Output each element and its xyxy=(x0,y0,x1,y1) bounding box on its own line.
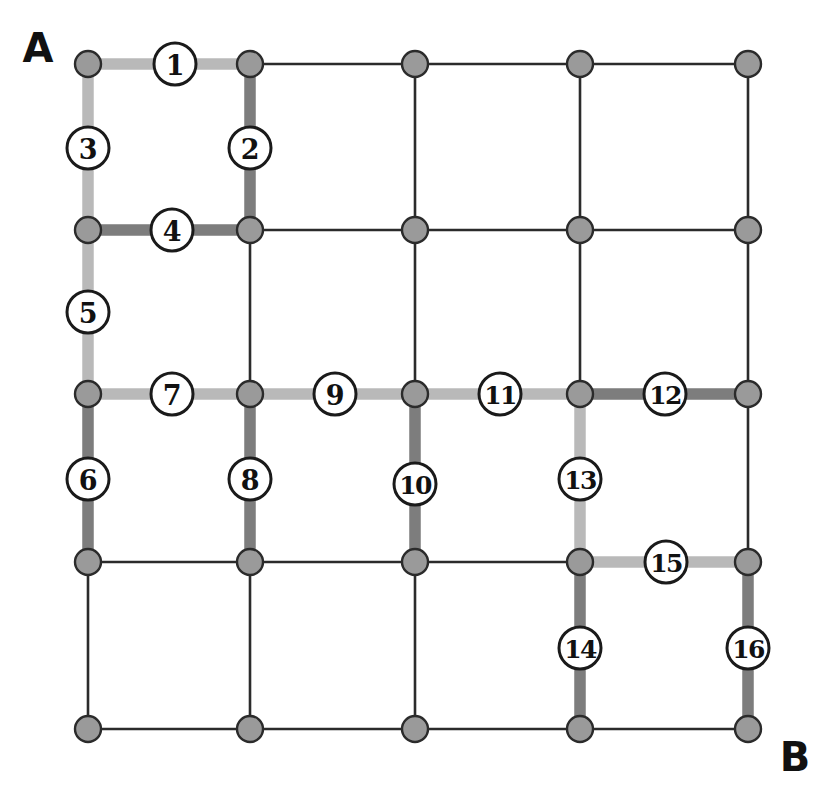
edge-label-11: 11 xyxy=(479,373,521,415)
graph-node-r0-c4 xyxy=(735,51,761,77)
graph-node-r3-c1 xyxy=(237,549,263,575)
edge-label-13: 13 xyxy=(559,458,601,500)
edge-label-5: 5 xyxy=(67,291,109,333)
edge-label-text-13: 13 xyxy=(564,466,596,495)
edge-label-2: 2 xyxy=(229,127,271,169)
edge-label-1: 1 xyxy=(154,43,196,85)
edge-label-text-1: 1 xyxy=(166,50,184,81)
edge-label-text-14: 14 xyxy=(564,635,597,664)
edge-label-text-7: 7 xyxy=(163,380,181,411)
graph-node-r1-c0 xyxy=(75,217,101,243)
graph-node-r1-c1 xyxy=(237,217,263,243)
edge-label-10: 10 xyxy=(394,463,436,505)
graph-node-r2-c0 xyxy=(75,381,101,407)
graph-node-r3-c2 xyxy=(402,549,428,575)
edge-label-text-5: 5 xyxy=(79,298,97,329)
edge-label-3: 3 xyxy=(67,127,109,169)
graph-node-r1-c2 xyxy=(402,217,428,243)
graph-node-r2-c4 xyxy=(735,381,761,407)
terminal-b: B xyxy=(780,734,811,780)
graph-node-r3-c3 xyxy=(567,549,593,575)
edge-label-8: 8 xyxy=(229,458,271,500)
graph-canvas: AB 12345678910111213141516 xyxy=(0,0,835,801)
edge-label-text-2: 2 xyxy=(241,134,259,165)
graph-node-r2-c2 xyxy=(402,381,428,407)
edge-label-12: 12 xyxy=(644,373,686,415)
edge-label-text-10: 10 xyxy=(399,471,432,500)
edge-label-text-16: 16 xyxy=(732,635,765,664)
graph-node-r0-c2 xyxy=(402,51,428,77)
edge-label-text-15: 15 xyxy=(650,549,682,578)
edge-label-text-9: 9 xyxy=(326,380,344,411)
edge-label-6: 6 xyxy=(67,458,109,500)
edge-label-text-12: 12 xyxy=(649,381,681,410)
graph-node-r0-c0 xyxy=(75,51,101,77)
graph-node-r1-c4 xyxy=(735,217,761,243)
edge-label-16: 16 xyxy=(727,627,769,669)
edge-label-text-6: 6 xyxy=(79,465,97,496)
graph-node-r3-c4 xyxy=(735,549,761,575)
graph-node-r0-c1 xyxy=(237,51,263,77)
edge-label-14: 14 xyxy=(559,627,601,669)
graph-node-r4-c4 xyxy=(735,716,761,742)
edge-label-text-8: 8 xyxy=(241,465,259,496)
graph-node-r2-c1 xyxy=(237,381,263,407)
terminal-a: A xyxy=(23,25,54,71)
grid-graph-diagram: AB 12345678910111213141516 xyxy=(0,0,835,801)
graph-node-r3-c0 xyxy=(75,549,101,575)
edge-label-9: 9 xyxy=(314,373,356,415)
graph-node-r4-c0 xyxy=(75,716,101,742)
edge-label-4: 4 xyxy=(151,209,193,251)
graph-node-r1-c3 xyxy=(567,217,593,243)
graph-node-r2-c3 xyxy=(567,381,593,407)
edge-label-15: 15 xyxy=(645,541,687,583)
edge-label-text-4: 4 xyxy=(163,216,181,247)
edge-label-text-11: 11 xyxy=(484,381,516,410)
edge-label-7: 7 xyxy=(151,373,193,415)
graph-node-r4-c3 xyxy=(567,716,593,742)
graph-node-r0-c3 xyxy=(567,51,593,77)
edge-label-text-3: 3 xyxy=(79,134,97,165)
graph-node-r4-c1 xyxy=(237,716,263,742)
graph-node-r4-c2 xyxy=(402,716,428,742)
